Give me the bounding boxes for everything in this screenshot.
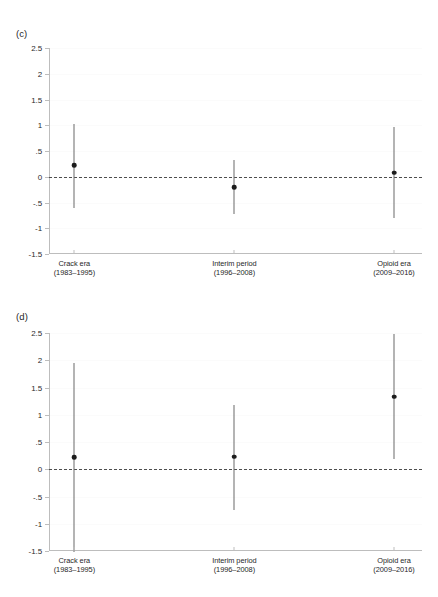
data-point-marker	[72, 163, 77, 168]
x-category-label: Crack era(1983–1995)	[54, 556, 95, 574]
x-category-label-line1: Interim period	[212, 259, 257, 268]
y-tick-label: -1.5	[29, 547, 42, 556]
y-tick-label: -.5	[33, 492, 42, 501]
gridline	[49, 360, 422, 361]
x-category-tick	[74, 250, 75, 254]
gridline	[49, 524, 422, 525]
y-tick-mark	[45, 100, 49, 101]
panel-d-plot-area: -1.5-1-.50.511.522.5Crack era(1983–1995)…	[49, 333, 422, 551]
zero-reference-line	[49, 177, 422, 178]
y-tick-label: -1	[35, 224, 42, 233]
y-tick-mark	[45, 551, 49, 552]
x-category-label-line1: Opioid era	[377, 556, 411, 565]
gridline	[49, 442, 422, 443]
y-tick-label: 2.5	[31, 329, 42, 338]
y-tick-label: 0	[38, 172, 42, 181]
y-tick-label: .5	[36, 438, 42, 447]
x-category-label: Crack era(1983–1995)	[54, 259, 95, 277]
x-category-label-line1: Crack era	[59, 259, 91, 268]
data-point-marker	[392, 394, 397, 399]
x-axis-line	[49, 253, 422, 254]
x-category-label-line2: (1983–1995)	[54, 565, 95, 574]
gridline	[49, 203, 422, 204]
x-category-label-line2: (2009–2016)	[373, 268, 414, 277]
y-tick-label: 2.5	[31, 44, 42, 53]
y-tick-label: 2	[38, 69, 42, 78]
gridline	[49, 333, 422, 334]
y-tick-label: 2	[38, 356, 42, 365]
figure-root: (c) -1.5-1-.50.511.522.5Crack era(1983–1…	[0, 0, 438, 597]
ghost-header-text	[150, 1, 430, 9]
y-tick-mark	[45, 125, 49, 126]
gridline	[49, 100, 422, 101]
x-category-label: Opioid era(2009–2016)	[373, 259, 414, 277]
x-category-label-line2: (1983–1995)	[54, 268, 95, 277]
x-category-tick	[234, 547, 235, 551]
y-tick-label: 1	[38, 121, 42, 130]
gridline	[49, 228, 422, 229]
zero-reference-line	[49, 469, 422, 470]
y-tick-mark	[45, 388, 49, 389]
y-tick-label: -1.5	[29, 250, 42, 259]
x-category-tick	[234, 250, 235, 254]
y-tick-label: 1.5	[31, 383, 42, 392]
data-point-marker	[232, 185, 237, 190]
panel-c: (c) -1.5-1-.50.511.522.5Crack era(1983–1…	[0, 22, 438, 290]
panel-c-label: (c)	[16, 28, 27, 39]
x-category-label: Opioid era(2009–2016)	[373, 556, 414, 574]
x-category-label-line2: (2009–2016)	[373, 565, 414, 574]
y-tick-mark	[45, 74, 49, 75]
x-category-label-line1: Crack era	[59, 556, 91, 565]
x-category-label-line2: (1996–2008)	[212, 565, 257, 574]
y-tick-mark	[45, 360, 49, 361]
y-tick-label: 0	[38, 465, 42, 474]
panel-d-label: (d)	[16, 311, 28, 322]
data-point-marker	[72, 455, 77, 460]
gridline	[49, 74, 422, 75]
y-tick-mark	[45, 497, 49, 498]
x-category-label-line2: (1996–2008)	[212, 268, 257, 277]
y-tick-label: 1.5	[31, 95, 42, 104]
x-category-label-line1: Opioid era	[377, 259, 411, 268]
data-point-marker	[232, 454, 237, 459]
x-category-label: Interim period(1996–2008)	[212, 259, 257, 277]
panel-c-plot-area: -1.5-1-.50.511.522.5Crack era(1983–1995)…	[49, 48, 422, 254]
x-category-tick	[394, 547, 395, 551]
x-axis-line	[49, 550, 422, 551]
x-category-tick	[394, 250, 395, 254]
y-tick-mark	[45, 151, 49, 152]
y-tick-label: .5	[36, 147, 42, 156]
y-tick-mark	[45, 203, 49, 204]
x-category-tick	[74, 547, 75, 551]
y-tick-mark	[45, 524, 49, 525]
gridline	[49, 497, 422, 498]
y-tick-mark	[45, 254, 49, 255]
data-point-marker	[392, 170, 397, 175]
gridline	[49, 125, 422, 126]
y-tick-mark	[45, 442, 49, 443]
panel-d: (d) -1.5-1-.50.511.522.5Crack era(1983–1…	[0, 305, 438, 597]
y-tick-label: -.5	[33, 198, 42, 207]
y-tick-mark	[45, 228, 49, 229]
y-tick-label: 1	[38, 410, 42, 419]
x-category-label: Interim period(1996–2008)	[212, 556, 257, 574]
y-tick-mark	[45, 415, 49, 416]
y-axis-line	[49, 48, 50, 254]
y-axis-line	[49, 333, 50, 551]
gridline	[49, 415, 422, 416]
gridline	[49, 388, 422, 389]
gridline	[49, 48, 422, 49]
y-tick-mark	[45, 333, 49, 334]
gridline	[49, 151, 422, 152]
y-tick-mark	[45, 48, 49, 49]
x-category-label-line1: Interim period	[212, 556, 257, 565]
y-tick-label: -1	[35, 519, 42, 528]
